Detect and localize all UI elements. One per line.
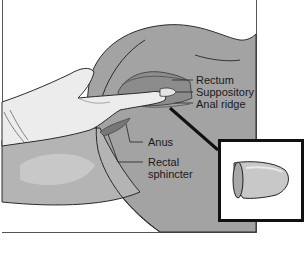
label-rectal-sphincter-line2: sphincter — [148, 168, 193, 180]
label-anal-ridge: Anal ridge — [196, 98, 246, 110]
suppository-base — [233, 162, 243, 198]
label-rectal-sphincter-line1: Rectal — [148, 156, 179, 168]
label-suppository: Suppository — [196, 86, 254, 98]
illustration-canvas — [0, 0, 306, 254]
suppository-insertion-illustration: Rectum Suppository Anal ridge Anus Recta… — [0, 0, 306, 254]
label-rectum: Rectum — [196, 74, 234, 86]
label-anus: Anus — [148, 136, 173, 148]
